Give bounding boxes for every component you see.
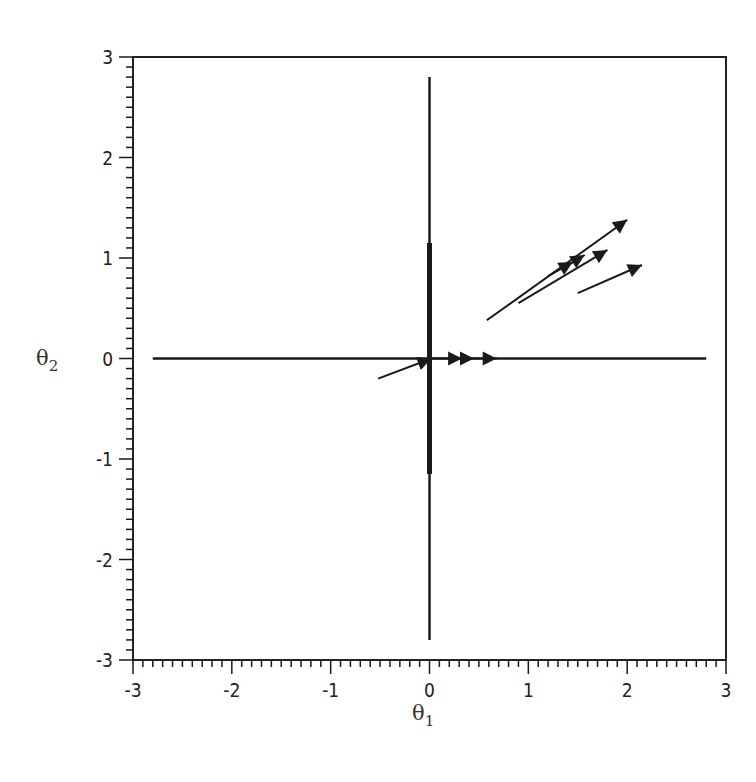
y-tick-label: 1: [102, 247, 113, 269]
vector-arrows: [378, 220, 642, 379]
x-tick-label: -3: [124, 679, 141, 701]
arrowhead-icon: [569, 255, 585, 268]
y-tick-label: -1: [96, 448, 113, 470]
y-tick-labels: 3210-1-2-3: [96, 46, 113, 671]
arrowhead-icon: [592, 250, 608, 263]
arrow: [378, 357, 431, 379]
arrow: [474, 352, 497, 366]
x-tick-label: 1: [523, 679, 534, 701]
arrowhead-icon: [483, 352, 497, 366]
arrowhead-icon: [612, 220, 627, 234]
x-tick-label: 0: [424, 679, 435, 701]
y-axis-label: θ2: [36, 346, 58, 375]
arrow: [430, 352, 463, 366]
arrow: [459, 352, 474, 366]
y-tick-label: 3: [102, 46, 113, 68]
y-tick-label: -3: [96, 649, 113, 671]
y-tick-label: 2: [102, 147, 113, 169]
x-tick-label: -1: [322, 679, 339, 701]
arrow-shaft: [518, 250, 607, 303]
y-tick-label: -2: [96, 549, 113, 571]
x-tick-label: 2: [622, 679, 633, 701]
x-tick-label: 3: [721, 679, 732, 701]
arrowhead-icon: [460, 352, 474, 366]
x-axis-label: θ1: [412, 701, 434, 730]
arrow: [518, 250, 607, 303]
x-tick-label: -2: [223, 679, 240, 701]
arrow: [578, 264, 642, 293]
quiver-plot: -3-2-10123 3210-1-2-3 θ1 θ2: [0, 0, 756, 782]
y-tick-label: 0: [102, 348, 113, 370]
x-tick-labels: -3-2-10123: [124, 679, 731, 701]
